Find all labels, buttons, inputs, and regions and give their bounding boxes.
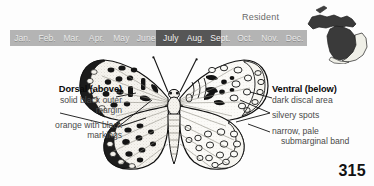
dorsal-note-1: solid black outer: [18, 95, 122, 106]
dorsal-callout-block: Dorsal (above) solid black outer margin …: [18, 84, 122, 141]
ventral-callout-block: Ventral (below) dark discal area silvery…: [272, 84, 372, 147]
dorsal-note-4: markings: [18, 130, 122, 141]
ventral-heading: Ventral (below): [272, 84, 372, 95]
ventral-note-3: narrow, pale: [272, 126, 372, 137]
dorsal-note-3: orange with black: [18, 120, 122, 131]
figure-panel: Resident Jan. Feb. Mar. Apr. May June Ju…: [0, 0, 374, 186]
dorsal-heading: Dorsal (above): [18, 84, 122, 95]
dorsal-note-2: margin: [18, 105, 122, 116]
ventral-note-4: submarginal band: [272, 136, 372, 147]
ventral-note-2: silvery spots: [272, 110, 372, 121]
ventral-note-1: dark discal area: [272, 95, 372, 106]
page-number: 315: [338, 162, 366, 180]
